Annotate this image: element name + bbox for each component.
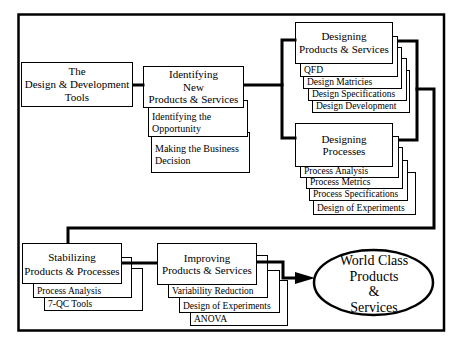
card-label-line: Decision — [155, 155, 239, 167]
goal-label-line: World Class — [340, 253, 408, 269]
goal-label-line: & — [369, 284, 380, 300]
node-label-line: Products & Services — [149, 93, 239, 106]
card-label: Variability Reduction — [172, 285, 254, 297]
node-stabilizing-products-processes: Stabilizing Products & Processes — [22, 243, 122, 284]
node-design-development-tools: The Design & Development Tools — [21, 62, 133, 107]
card-label: Process Analysis — [37, 285, 101, 297]
node-label-line: Products & Services — [299, 43, 389, 56]
node-label-line: Designing — [321, 30, 366, 43]
connector-left-bracket — [282, 40, 295, 138]
goal-label-line: Products — [350, 269, 399, 285]
node-label-line: Products & Processes — [24, 264, 119, 278]
arrowhead-icon — [295, 272, 315, 284]
card-label-line: Opportunity — [152, 123, 211, 135]
node-label-line: The — [68, 65, 85, 78]
node-label-line: Design & Development — [25, 78, 129, 91]
node-label-line: New — [183, 81, 204, 94]
node-label-line: Identifying — [169, 68, 218, 81]
card-label: Design Development — [316, 100, 396, 112]
card-label: 7-QC Tools — [48, 298, 92, 310]
card-label: QFD — [304, 64, 323, 76]
card-business-decision: Making the Business Decision — [151, 132, 250, 173]
node-label-line: Products & Services — [162, 264, 252, 277]
card-label: Design of Experiments — [317, 202, 405, 214]
node-label-line: Designing — [321, 133, 366, 146]
card-label: Design Specifications — [312, 88, 395, 100]
card-label: Design Matricies — [307, 76, 372, 88]
card-label: Process Specifications — [313, 188, 398, 200]
node-identifying-new-products: Identifying New Products & Services — [143, 66, 244, 108]
node-designing-processes: Designing Processes — [295, 123, 393, 167]
card-label: Design of Experiments — [183, 300, 271, 312]
node-label-line: Tools — [65, 91, 89, 104]
node-label-line: Stabilizing — [48, 250, 96, 264]
goal-label-line: Services — [350, 300, 397, 316]
card-label: ANOVA — [194, 313, 227, 325]
card-label-line: Identifying the — [152, 111, 211, 123]
node-designing-products-services: Designing Products & Services — [295, 22, 393, 64]
node-world-class-label: World Class Products & Services — [314, 251, 434, 317]
card-label-line: Making the Business — [155, 143, 239, 155]
diagram-canvas: The Design & Development Tools Identifyi… — [0, 0, 459, 345]
node-label-line: Improving — [184, 252, 230, 265]
node-improving-products-services: Improving Products & Services — [157, 243, 257, 285]
node-label-line: Processes — [323, 145, 366, 158]
